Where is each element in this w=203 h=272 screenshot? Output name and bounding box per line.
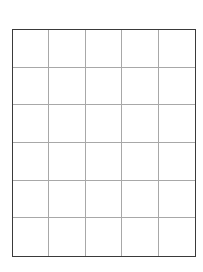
grid-cell	[13, 30, 49, 68]
grid-cell	[49, 218, 85, 256]
grid-cell	[13, 105, 49, 143]
grid-cell	[159, 68, 195, 106]
grid-cell	[13, 218, 49, 256]
grid-cell	[122, 68, 158, 106]
grid-cell	[122, 30, 158, 68]
grid-cell	[86, 105, 122, 143]
grid-cell	[122, 181, 158, 219]
grid-cell	[49, 105, 85, 143]
grid-cell	[49, 143, 85, 181]
grid-cell	[159, 30, 195, 68]
grid-cell	[86, 68, 122, 106]
grid-cell	[159, 143, 195, 181]
grid-cell	[49, 181, 85, 219]
grid-cell	[122, 143, 158, 181]
grid-cell	[13, 181, 49, 219]
grid-cell	[122, 105, 158, 143]
grid-cell	[86, 143, 122, 181]
grid-cell	[86, 218, 122, 256]
empty-grid	[12, 29, 196, 257]
grid-cell	[49, 30, 85, 68]
grid-cell	[13, 68, 49, 106]
grid-cell	[159, 181, 195, 219]
grid-cell	[159, 105, 195, 143]
grid-cell	[13, 143, 49, 181]
grid-cell	[122, 218, 158, 256]
grid-cell	[86, 181, 122, 219]
grid-cell	[86, 30, 122, 68]
grid-cell	[159, 218, 195, 256]
grid-cell	[49, 68, 85, 106]
